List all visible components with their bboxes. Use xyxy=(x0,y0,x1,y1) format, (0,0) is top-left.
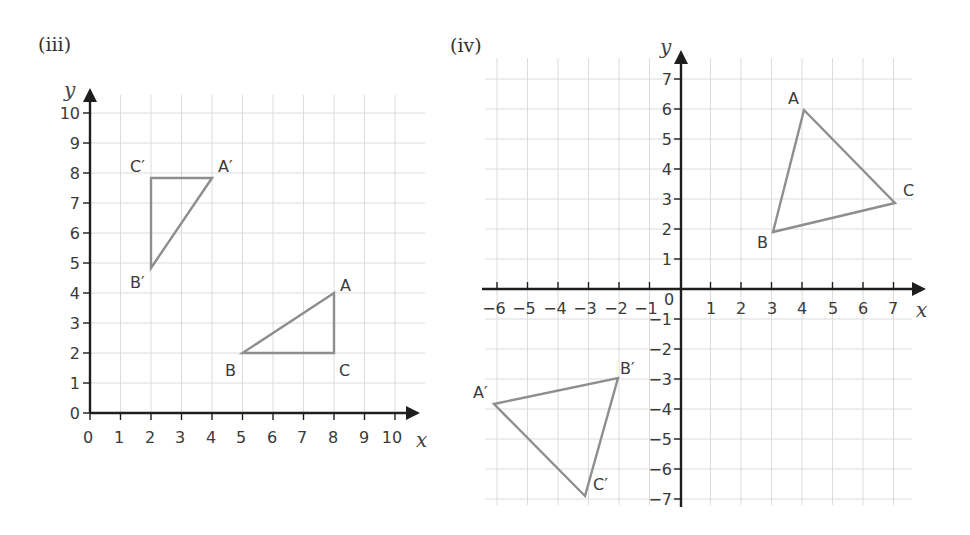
x-axis-label: x xyxy=(916,298,927,322)
x-axis-arrow-icon xyxy=(912,282,926,296)
y-axis-arrow-icon xyxy=(674,50,688,64)
svg-text:4: 4 xyxy=(206,428,216,447)
svg-text:7: 7 xyxy=(297,428,307,447)
svg-text:−4: −4 xyxy=(543,299,567,318)
x-axis-arrow-icon xyxy=(406,406,420,420)
x-ticks: −6 −5 −4 −3 −2 −1 1 2 3 4 5 6 7 xyxy=(482,282,898,318)
vertex-label-a-prime: A′ xyxy=(473,383,488,402)
svg-text:3: 3 xyxy=(175,428,185,447)
vertex-label-c: C xyxy=(339,361,350,380)
svg-text:10: 10 xyxy=(382,428,402,447)
svg-text:0: 0 xyxy=(83,428,93,447)
panel-label: (iv) xyxy=(450,34,482,56)
vertex-label-c-prime: C′ xyxy=(130,157,145,176)
svg-text:6: 6 xyxy=(70,224,80,243)
vertex-label-a-prime: A′ xyxy=(218,157,233,176)
grid xyxy=(485,58,912,505)
svg-text:4: 4 xyxy=(662,160,672,179)
svg-text:8: 8 xyxy=(70,164,80,183)
x-ticks: 0 1 2 3 4 5 6 7 8 9 10 xyxy=(83,413,402,447)
svg-text:2: 2 xyxy=(736,299,746,318)
svg-text:7: 7 xyxy=(70,194,80,213)
svg-text:5: 5 xyxy=(828,299,838,318)
svg-text:9: 9 xyxy=(359,428,369,447)
svg-text:−4: −4 xyxy=(648,400,672,419)
svg-text:6: 6 xyxy=(267,428,277,447)
grid xyxy=(90,95,425,413)
svg-text:−1: −1 xyxy=(648,310,672,329)
vertex-label-b-prime: B′ xyxy=(620,359,635,378)
svg-text:2: 2 xyxy=(662,220,672,239)
svg-text:3: 3 xyxy=(70,314,80,333)
svg-text:1: 1 xyxy=(706,299,716,318)
vertex-label-a: A xyxy=(788,89,799,108)
vertex-label-b: B xyxy=(757,233,768,252)
vertex-label-b: B xyxy=(225,361,236,380)
svg-text:−3: −3 xyxy=(648,370,672,389)
svg-text:−6: −6 xyxy=(648,460,672,479)
svg-text:−3: −3 xyxy=(573,299,597,318)
y-axis-label: y xyxy=(63,78,76,102)
diagram-canvas: (iii) x y xyxy=(0,0,970,535)
svg-text:5: 5 xyxy=(70,254,80,273)
panel-iv: (iv) xyxy=(450,34,927,509)
svg-text:4: 4 xyxy=(70,284,80,303)
svg-text:4: 4 xyxy=(797,299,807,318)
vertex-label-c: C xyxy=(903,181,914,200)
svg-text:7: 7 xyxy=(888,299,898,318)
svg-text:2: 2 xyxy=(70,344,80,363)
svg-text:8: 8 xyxy=(328,428,338,447)
svg-text:1: 1 xyxy=(114,428,124,447)
svg-text:3: 3 xyxy=(767,299,777,318)
svg-text:9: 9 xyxy=(70,134,80,153)
vertex-label-a: A xyxy=(340,276,351,295)
svg-text:−5: −5 xyxy=(648,430,672,449)
vertex-label-c-prime: C′ xyxy=(593,475,608,494)
svg-text:7: 7 xyxy=(662,70,672,89)
svg-text:10: 10 xyxy=(60,104,80,123)
vertex-label-b-prime: B′ xyxy=(130,273,145,292)
svg-text:1: 1 xyxy=(70,374,80,393)
svg-text:1: 1 xyxy=(662,250,672,269)
y-ticks: 0 1 2 3 4 5 6 7 8 9 10 xyxy=(60,104,90,423)
svg-text:5: 5 xyxy=(236,428,246,447)
y-axis-label: y xyxy=(659,35,672,59)
svg-text:6: 6 xyxy=(858,299,868,318)
svg-text:−7: −7 xyxy=(648,490,672,509)
svg-text:−2: −2 xyxy=(604,299,628,318)
svg-text:3: 3 xyxy=(662,190,672,209)
svg-text:−6: −6 xyxy=(482,299,506,318)
svg-text:−5: −5 xyxy=(512,299,536,318)
svg-text:5: 5 xyxy=(662,130,672,149)
panel-label: (iii) xyxy=(38,33,71,55)
svg-text:0: 0 xyxy=(70,404,80,423)
svg-text:2: 2 xyxy=(145,428,155,447)
triangle-abc xyxy=(773,110,895,232)
svg-text:6: 6 xyxy=(662,100,672,119)
svg-text:−2: −2 xyxy=(648,340,672,359)
x-axis-label: x xyxy=(416,428,427,452)
panel-iii: (iii) x y xyxy=(38,33,427,452)
origin-label: 0 xyxy=(664,290,674,309)
y-axis-arrow-icon xyxy=(83,88,97,102)
